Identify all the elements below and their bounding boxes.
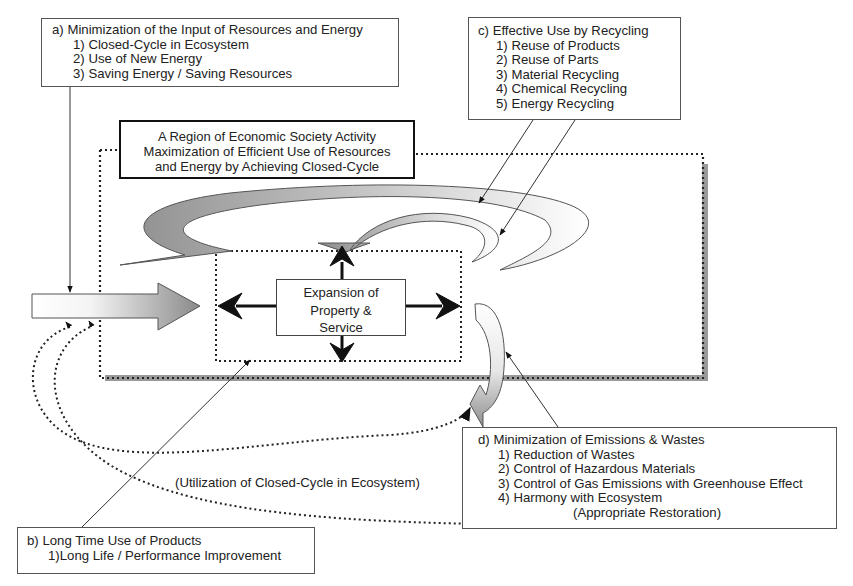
emissions-arrow	[470, 304, 504, 427]
center-line: Service	[277, 319, 405, 337]
center-line: Property &	[277, 302, 405, 320]
box-d-title: d) Minimization of Emissions & Wastes	[478, 433, 836, 448]
box-a-item: 3) Saving Energy / Saving Resources	[52, 67, 398, 82]
box-d-item: 2) Control of Hazardous Materials	[478, 462, 836, 477]
box-b-long-use: b) Long Time Use of Products 1)Long Life…	[17, 527, 315, 574]
box-c-recycling: c) Effective Use by Recycling 1) Reuse o…	[468, 17, 681, 120]
outer-recycling-arrow	[120, 185, 589, 270]
box-d-minimize-emissions: d) Minimization of Emissions & Wastes 1)…	[462, 427, 837, 529]
box-b-title: b) Long Time Use of Products	[27, 534, 314, 549]
region-line: and Energy by Achieving Closed-Cycle	[121, 159, 413, 174]
box-c-item: 2) Reuse of Parts	[478, 53, 680, 68]
box-a-item: 1) Closed-Cycle in Ecosystem	[52, 38, 398, 53]
region-line: Maximization of Efficient Use of Resourc…	[121, 144, 413, 159]
box-a-item: 2) Use of New Energy	[52, 52, 398, 67]
box-c-item: 1) Reuse of Products	[478, 39, 680, 54]
box-d-item: 4) Harmony with Ecosystem	[478, 491, 836, 506]
box-c-title: c) Effective Use by Recycling	[478, 24, 680, 39]
box-c-item: 5) Energy Recycling	[478, 97, 680, 112]
box-a-minimize-input: a) Minimization of the Input of Resource…	[41, 18, 399, 87]
box-d-subitem: (Appropriate Restoration)	[478, 506, 836, 521]
ecosystem-cycle-label: (Utilization of Closed-Cycle in Ecosyste…	[175, 475, 420, 490]
economic-region-border	[100, 150, 703, 378]
box-d-item: 3) Control of Gas Emissions with Greenho…	[478, 477, 836, 492]
region-line: A Region of Economic Society Activity	[121, 129, 413, 144]
box-d-item: 1) Reduction of Wastes	[478, 448, 836, 463]
center-line: Expansion of	[277, 284, 405, 302]
box-b-item: 1)Long Life / Performance Improvement	[27, 549, 314, 564]
input-arrow	[32, 283, 200, 330]
box-a-title: a) Minimization of the Input of Resource…	[52, 23, 398, 38]
economic-region-label: A Region of Economic Society Activity Ma…	[119, 120, 415, 179]
box-c-item: 3) Material Recycling	[478, 68, 680, 83]
expansion-box: Expansion of Property & Service	[276, 279, 406, 336]
box-c-item: 4) Chemical Recycling	[478, 82, 680, 97]
